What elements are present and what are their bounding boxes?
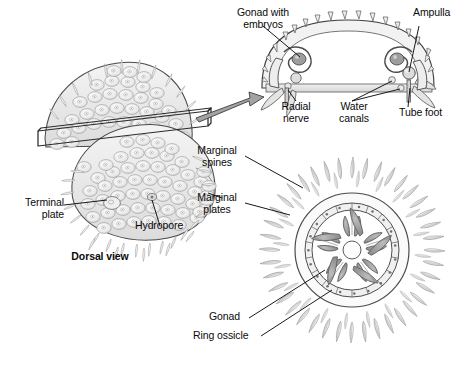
label-gonad-with-embryos: Gonad with embryos [218, 7, 308, 30]
label-radial-nerve: Radial nerve [272, 101, 320, 124]
section-arrow [196, 92, 264, 122]
terminal-plate-structure [104, 197, 121, 210]
caption-dorsal-view: Dorsal view [55, 251, 145, 263]
label-gonad: Gonad [209, 311, 259, 323]
label-terminal-plate: Terminal plate [2, 197, 64, 220]
label-tube-foot: Tube foot [399, 107, 461, 119]
label-ampulla: Ampulla [413, 7, 464, 19]
internal-ring-panel [259, 157, 445, 343]
hydropore-structure [147, 193, 156, 200]
label-marginal-plates: Marginal plates [188, 192, 246, 215]
label-marginal-spines: Marginal spines [188, 145, 246, 168]
label-hydropore: Hydropore [135, 220, 205, 232]
label-water-canals: Water canals [330, 101, 378, 124]
label-ring-ossicle: Ring ossicle [193, 330, 267, 342]
